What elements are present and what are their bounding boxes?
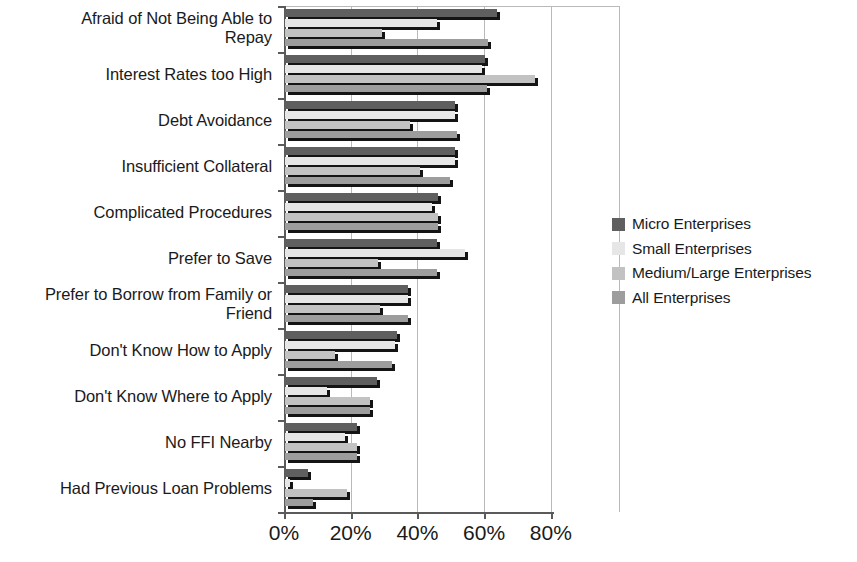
x-axis-tick-label: 80% <box>516 520 586 546</box>
category-label-line: Insufficient Collateral <box>0 157 272 176</box>
bar <box>285 131 460 142</box>
bar <box>285 453 360 464</box>
x-axis-tick <box>351 512 353 519</box>
bar-fill <box>285 9 497 17</box>
x-axis-tick <box>484 512 486 519</box>
bar-shadow-bottom <box>288 276 440 279</box>
category-label-line: Friend <box>0 304 272 323</box>
bar-fill <box>285 433 345 441</box>
category-label: No FFI Nearby <box>0 433 272 452</box>
bar-fill <box>285 305 380 313</box>
bar-group <box>284 374 620 420</box>
bar-fill <box>285 341 395 349</box>
bar-group <box>284 144 620 190</box>
legend-item[interactable]: Micro Enterprises <box>612 212 856 237</box>
bar <box>285 361 395 372</box>
bar-shadow-bottom <box>288 184 453 187</box>
plot-area <box>284 6 620 512</box>
bar-fill <box>285 131 457 139</box>
bar-group <box>284 282 620 328</box>
bar-fill <box>285 361 392 369</box>
bar-fill <box>285 167 420 175</box>
legend-label: Small Enterprises <box>632 240 752 258</box>
bar-fill <box>285 295 408 303</box>
bar-shadow-bottom <box>288 460 360 463</box>
x-axis-tick <box>284 512 286 519</box>
legend-swatch-icon <box>612 267 625 280</box>
bar <box>285 315 411 326</box>
legend-item[interactable]: Small Enterprises <box>612 237 856 262</box>
category-axis: Afraid of Not Being Able toRepayInterest… <box>0 0 278 512</box>
bar-fill <box>285 351 335 359</box>
category-label: Had Previous Loan Problems <box>0 479 272 498</box>
category-label-line: Had Previous Loan Problems <box>0 479 272 498</box>
category-label: Don't Know Where to Apply <box>0 387 272 406</box>
category-label-line: Complicated Procedures <box>0 203 272 222</box>
bar-fill <box>285 489 347 497</box>
bar-shadow-bottom <box>288 368 395 371</box>
bar-fill <box>285 315 408 323</box>
bar <box>285 177 453 188</box>
bar-fill <box>285 499 313 507</box>
bar-group <box>284 98 620 144</box>
bar-fill <box>285 259 378 267</box>
bar-fill <box>285 203 432 211</box>
bar-shadow-bottom <box>288 414 373 417</box>
bar-group <box>284 328 620 374</box>
x-axis-tick-label: 40% <box>382 520 452 546</box>
bar-fill <box>285 443 357 451</box>
category-label-line: Don't Know How to Apply <box>0 341 272 360</box>
bar-shadow-bottom <box>288 230 441 233</box>
bar-fill <box>285 39 488 47</box>
bar-fill <box>285 397 370 405</box>
category-label-line: Don't Know Where to Apply <box>0 387 272 406</box>
category-label: Debt Avoidance <box>0 111 272 130</box>
bar-group <box>284 420 620 466</box>
bar-fill <box>285 75 535 83</box>
bar <box>285 499 316 510</box>
bar-group <box>284 466 620 512</box>
bar-shadow-bottom <box>288 322 411 325</box>
bar-fill <box>285 29 382 37</box>
bar-fill <box>285 111 455 119</box>
bar-fill <box>285 269 437 277</box>
bar <box>285 85 490 96</box>
bar-group <box>284 190 620 236</box>
x-axis-tick-labels: 0%20%40%60%80% <box>284 520 624 554</box>
category-label-line: Debt Avoidance <box>0 111 272 130</box>
category-label: Prefer to Borrow from Family orFriend <box>0 285 272 323</box>
bar-fill <box>285 423 357 431</box>
bar-fill <box>285 453 357 461</box>
category-label-line: Afraid of Not Being Able to <box>0 9 272 28</box>
bar-fill <box>285 55 485 63</box>
category-label-line: Prefer to Save <box>0 249 272 268</box>
bar-fill <box>285 331 397 339</box>
bar <box>285 407 373 418</box>
category-label: Prefer to Save <box>0 249 272 268</box>
bar-group <box>284 6 620 52</box>
bar-fill <box>285 249 465 257</box>
category-label-line: Interest Rates too High <box>0 65 272 84</box>
bar-chart: Afraid of Not Being Able toRepayInterest… <box>0 0 857 562</box>
bar <box>285 39 491 50</box>
bar-fill <box>285 65 482 73</box>
bar-fill <box>285 223 438 231</box>
category-label: Interest Rates too High <box>0 65 272 84</box>
bar-shadow-bottom <box>288 506 316 509</box>
category-label: Don't Know How to Apply <box>0 341 272 360</box>
bar-fill <box>285 469 308 477</box>
bar-fill <box>285 177 450 185</box>
bar-fill <box>285 239 437 247</box>
x-axis-tick <box>551 512 553 519</box>
x-axis-tick-label: 20% <box>316 520 386 546</box>
bar-shadow-bottom <box>288 138 460 141</box>
bar <box>285 223 441 234</box>
bar-fill <box>285 285 408 293</box>
bar-shadow-bottom <box>288 46 491 49</box>
x-axis-tick-label: 0% <box>249 520 319 546</box>
legend-item[interactable]: All Enterprises <box>612 286 856 311</box>
bar-fill <box>285 101 455 109</box>
x-axis-tick <box>417 512 419 519</box>
legend-item[interactable]: Medium/Large Enterprises <box>612 261 856 286</box>
category-label: Afraid of Not Being Able toRepay <box>0 9 272 47</box>
